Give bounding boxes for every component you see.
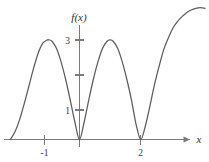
x-tick-label-minus-1: -1	[41, 148, 49, 158]
x-tick-label-2: 2	[138, 148, 143, 158]
x-axis-label: x	[196, 133, 202, 145]
plot-canvas: 3 1 -1 2 f(x) x	[0, 0, 209, 162]
function-curve	[10, 8, 205, 140]
y-tick-label-1: 1	[65, 106, 70, 116]
y-axis-label: f(x)	[71, 11, 87, 24]
y-tick-label-3: 3	[65, 36, 70, 46]
x-axis-arrow-icon	[184, 137, 191, 143]
function-graph-figure: 3 1 -1 2 f(x) x	[0, 0, 209, 162]
